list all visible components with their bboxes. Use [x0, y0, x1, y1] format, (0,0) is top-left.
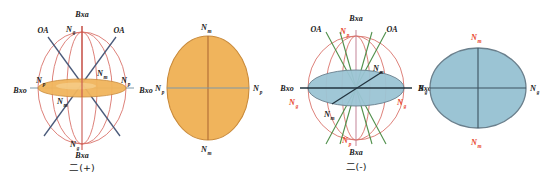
label-n-bottom: N g — [69, 140, 80, 151]
optical-indicatrix-figure-sheet: Bxa N g OA OA Bxo N p N p Bxo N m N — [0, 0, 544, 176]
section-label-n-bottom: N m — [200, 145, 211, 156]
label-n-inner-lower: N m — [56, 97, 67, 108]
section-label-n-right-neg: N g — [529, 84, 540, 95]
section-label-n-left-neg-sub: g — [424, 89, 428, 95]
label-n-inner-upper-sub: m — [103, 74, 107, 80]
label-bxo-left: Bxo — [12, 86, 26, 95]
figure-indicatrix-biaxial-positive: Bxa N g OA OA Bxo N p N p Bxo N m N — [12, 10, 152, 173]
label-n-top-neg: N p — [339, 27, 350, 38]
section-label-n-top-neg-sub: m — [477, 38, 481, 44]
label-n-inner-upper-neg: N m — [372, 64, 383, 75]
figure-section-biaxial-negative: N m N m N g N g — [417, 33, 540, 149]
figure-indicatrix-biaxial-negative: Bxa N p OA OA Bxo Bxo N g N g N m N m N … — [279, 14, 431, 172]
label-n-inner-upper: N m — [96, 69, 107, 80]
label-n-left: N p — [35, 76, 46, 87]
label-n-right-sub: p — [127, 81, 131, 87]
label-oa-left-neg: OA — [310, 25, 322, 34]
caption-biaxial-positive: 二(+) — [69, 162, 94, 173]
section-label-n-right: N p — [252, 84, 263, 95]
label-n-left-neg: N g — [288, 98, 299, 109]
label-bxa-top-neg: Bxa — [348, 14, 362, 23]
label-n-top-sub: g — [72, 29, 76, 35]
label-n-top-neg-sub: p — [346, 32, 350, 38]
label-n-bottom-neg-sub: p — [348, 141, 352, 147]
section-label-n-right-neg-sub: g — [536, 89, 540, 95]
label-bxa-bottom: Bxa — [74, 151, 88, 160]
figure-section-biaxial-positive: N m N m N p N p — [154, 23, 263, 156]
section-label-n-bottom-neg: N m — [470, 138, 481, 149]
section-label-n-left-sub: p — [161, 89, 165, 95]
section-label-n-top: N m — [200, 23, 211, 34]
label-n-right-neg: N g — [396, 98, 407, 109]
label-n-right-neg-sub: g — [403, 103, 407, 109]
label-bxo-right: Bxo — [138, 86, 152, 95]
label-oa-right-neg: OA — [386, 25, 398, 34]
disc-highlight — [56, 83, 96, 90]
section-label-n-bottom-neg-sub: m — [477, 143, 481, 149]
label-bxa-top: Bxa — [74, 10, 88, 19]
label-n-inner-lower-neg-sub: m — [330, 115, 334, 121]
section-label-n-left: N p — [154, 84, 165, 95]
label-n-left-neg-sub: g — [295, 103, 299, 109]
label-n-left-sub: p — [42, 81, 46, 87]
section-label-n-top-neg: N m — [470, 33, 481, 44]
label-oa-left: OA — [37, 26, 49, 35]
indicatrix-diagram-svg: Bxa N g OA OA Bxo N p N p Bxo N m N — [0, 0, 544, 176]
section-label-n-bottom-sub: m — [207, 150, 211, 156]
label-n-inner-upper-neg-sub: m — [379, 69, 383, 75]
label-oa-right: OA — [113, 26, 125, 35]
section-label-n-top-sub: m — [207, 28, 211, 34]
label-n-bottom-sub: g — [76, 145, 80, 151]
label-n-right: N p — [120, 76, 131, 87]
label-n-inner-lower-neg: N m — [323, 110, 334, 121]
label-n-inner-lower-sub: m — [63, 102, 67, 108]
caption-biaxial-negative: 二(-) — [346, 161, 367, 172]
label-n-bottom-neg: N p — [341, 136, 352, 147]
label-n-top: N g — [65, 25, 76, 35]
label-bxa-bottom-neg: Bxa — [348, 148, 362, 157]
section-label-n-right-sub: p — [259, 89, 263, 95]
label-bxo-left-neg: Bxo — [279, 84, 293, 93]
